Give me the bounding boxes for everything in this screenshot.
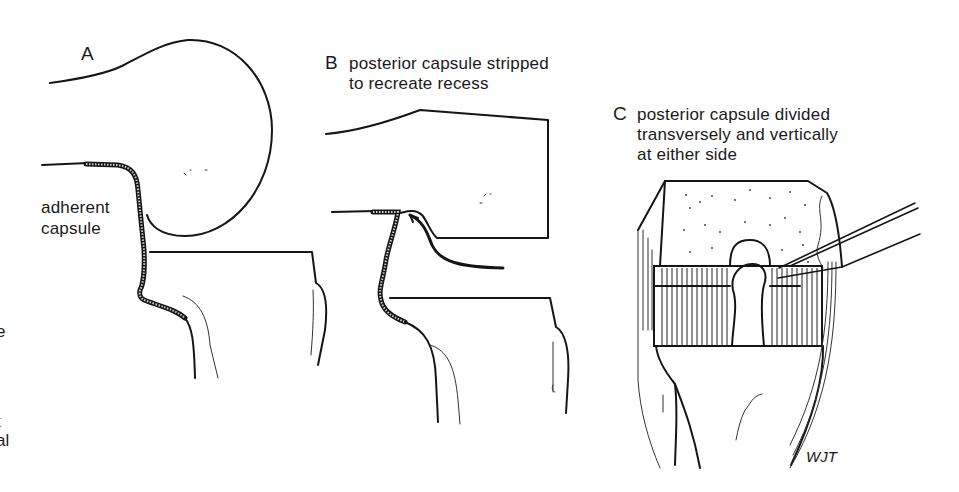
adherent-capsule-a — [86, 164, 185, 318]
artist-signature: WJT — [806, 448, 839, 465]
tibia-outline-b — [390, 298, 568, 413]
tibia-outline-a — [150, 252, 326, 365]
capsule-vertical-hatching — [662, 268, 817, 345]
tibia-posterior-b — [405, 322, 438, 422]
cruciate-ligament-c — [732, 264, 766, 346]
femur-shaft-lower-b — [332, 211, 375, 212]
panel-c-drawing: WJT — [638, 181, 920, 468]
bone-texture-dots — [683, 189, 809, 263]
panel-a-drawing — [42, 40, 326, 378]
femur-outline-b — [326, 110, 548, 238]
stripping-instrument-b — [410, 215, 503, 268]
stripped-capsule-b — [373, 212, 405, 322]
tibia-posterior-a — [185, 318, 195, 378]
femur-outline-a — [50, 40, 272, 236]
intercondylar-notch-c — [730, 240, 770, 266]
femoral-condyle-c — [638, 181, 842, 267]
panel-b-drawing — [326, 110, 568, 424]
femur-shaft-lower-a — [42, 163, 88, 165]
illustration-canvas: WJT — [0, 0, 959, 492]
tibia-outline-c — [656, 346, 677, 465]
